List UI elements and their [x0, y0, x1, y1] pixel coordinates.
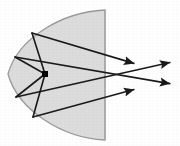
parabolic-reflector-diagram: [0, 0, 180, 146]
reflector-group: [8, 10, 105, 140]
parabolic-mirror-surface: [8, 10, 105, 140]
ray-diagram-container: [0, 0, 180, 146]
focal-point-marker: [42, 71, 48, 77]
